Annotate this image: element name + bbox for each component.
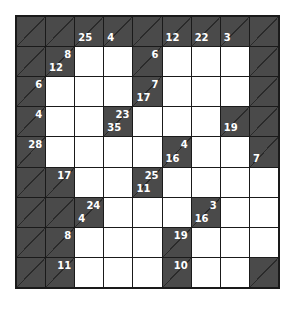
entry-cell[interactable] bbox=[75, 107, 103, 136]
entry-cell[interactable] bbox=[46, 77, 74, 106]
entry-cell[interactable] bbox=[75, 137, 103, 166]
entry-cell[interactable] bbox=[221, 168, 249, 197]
entry-cell[interactable] bbox=[221, 47, 249, 76]
clue-cell: 244 bbox=[75, 198, 103, 227]
blocked-cell bbox=[46, 198, 74, 227]
blocked-cell bbox=[133, 17, 161, 46]
entry-cell[interactable] bbox=[75, 77, 103, 106]
clue-cell: 12 bbox=[163, 17, 191, 46]
entry-cell[interactable] bbox=[133, 198, 161, 227]
blocked-cell bbox=[250, 47, 278, 76]
clue-cell: 4 bbox=[104, 17, 132, 46]
entry-cell[interactable] bbox=[163, 198, 191, 227]
entry-cell[interactable] bbox=[250, 198, 278, 227]
entry-cell[interactable] bbox=[104, 228, 132, 257]
across-clue: 19 bbox=[174, 231, 188, 241]
across-clue: 11 bbox=[57, 261, 71, 271]
clue-cell: 19 bbox=[163, 228, 191, 257]
down-clue: 16 bbox=[195, 214, 209, 224]
clue-cell: 17 bbox=[46, 168, 74, 197]
down-clue: 17 bbox=[136, 93, 150, 103]
across-clue: 23 bbox=[116, 110, 130, 120]
blocked-cell bbox=[250, 107, 278, 136]
entry-cell[interactable] bbox=[221, 258, 249, 287]
entry-cell[interactable] bbox=[104, 168, 132, 197]
clue-cell: 7 bbox=[250, 137, 278, 166]
blocked-cell bbox=[17, 198, 45, 227]
entry-cell[interactable] bbox=[250, 168, 278, 197]
entry-cell[interactable] bbox=[104, 137, 132, 166]
entry-cell[interactable] bbox=[133, 137, 161, 166]
clue-cell: 717 bbox=[133, 77, 161, 106]
blocked-cell bbox=[250, 258, 278, 287]
entry-cell[interactable] bbox=[163, 47, 191, 76]
down-clue: 4 bbox=[107, 33, 114, 43]
clue-cell: 812 bbox=[46, 47, 74, 76]
entry-cell[interactable] bbox=[221, 198, 249, 227]
clue-cell: 25 bbox=[75, 17, 103, 46]
entry-cell[interactable] bbox=[192, 228, 220, 257]
entry-cell[interactable] bbox=[133, 107, 161, 136]
blocked-cell bbox=[17, 168, 45, 197]
down-clue: 19 bbox=[224, 123, 238, 133]
entry-cell[interactable] bbox=[133, 258, 161, 287]
entry-cell[interactable] bbox=[163, 107, 191, 136]
entry-cell[interactable] bbox=[221, 228, 249, 257]
clue-cell: 316 bbox=[192, 198, 220, 227]
across-clue: 24 bbox=[86, 201, 100, 211]
across-clue: 4 bbox=[35, 110, 42, 120]
entry-cell[interactable] bbox=[46, 107, 74, 136]
clue-cell: 22 bbox=[192, 17, 220, 46]
entry-cell[interactable] bbox=[163, 77, 191, 106]
across-clue: 3 bbox=[210, 201, 217, 211]
entry-cell[interactable] bbox=[104, 198, 132, 227]
entry-cell[interactable] bbox=[46, 137, 74, 166]
entry-cell[interactable] bbox=[221, 77, 249, 106]
entry-cell[interactable] bbox=[133, 228, 161, 257]
across-clue: 25 bbox=[145, 171, 159, 181]
down-clue: 12 bbox=[166, 33, 180, 43]
kakuro-board: 2541222381266717423351928416717251124431… bbox=[15, 15, 280, 289]
entry-cell[interactable] bbox=[104, 47, 132, 76]
entry-cell[interactable] bbox=[192, 137, 220, 166]
entry-cell[interactable] bbox=[163, 168, 191, 197]
blocked-cell bbox=[17, 17, 45, 46]
entry-cell[interactable] bbox=[75, 168, 103, 197]
entry-cell[interactable] bbox=[75, 228, 103, 257]
down-clue: 7 bbox=[253, 154, 260, 164]
across-clue: 7 bbox=[152, 80, 159, 90]
clue-cell: 11 bbox=[46, 258, 74, 287]
entry-cell[interactable] bbox=[221, 137, 249, 166]
across-clue: 28 bbox=[28, 140, 42, 150]
entry-cell[interactable] bbox=[104, 258, 132, 287]
across-clue: 6 bbox=[35, 80, 42, 90]
blocked-cell bbox=[17, 228, 45, 257]
blocked-cell bbox=[46, 17, 74, 46]
clue-cell: 3 bbox=[221, 17, 249, 46]
clue-cell: 6 bbox=[133, 47, 161, 76]
entry-cell[interactable] bbox=[75, 47, 103, 76]
down-clue: 12 bbox=[49, 63, 63, 73]
down-clue: 11 bbox=[136, 184, 150, 194]
across-clue: 6 bbox=[152, 50, 159, 60]
down-clue: 25 bbox=[78, 33, 92, 43]
entry-cell[interactable] bbox=[192, 258, 220, 287]
clue-cell: 28 bbox=[17, 137, 45, 166]
down-clue: 35 bbox=[107, 123, 121, 133]
down-clue: 4 bbox=[78, 214, 85, 224]
across-clue: 8 bbox=[64, 50, 71, 60]
down-clue: 3 bbox=[224, 33, 231, 43]
clue-cell: 416 bbox=[163, 137, 191, 166]
entry-cell[interactable] bbox=[192, 168, 220, 197]
entry-cell[interactable] bbox=[192, 107, 220, 136]
clue-cell: 10 bbox=[163, 258, 191, 287]
blocked-cell bbox=[17, 47, 45, 76]
entry-cell[interactable] bbox=[192, 77, 220, 106]
blocked-cell bbox=[250, 17, 278, 46]
across-clue: 17 bbox=[57, 171, 71, 181]
entry-cell[interactable] bbox=[104, 77, 132, 106]
entry-cell[interactable] bbox=[250, 228, 278, 257]
entry-cell[interactable] bbox=[75, 258, 103, 287]
blocked-cell bbox=[17, 258, 45, 287]
entry-cell[interactable] bbox=[192, 47, 220, 76]
